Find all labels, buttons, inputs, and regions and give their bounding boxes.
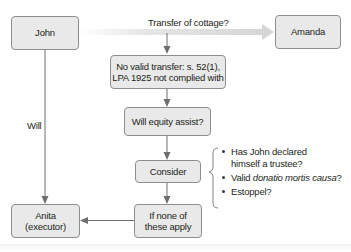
arrow-to-if-none xyxy=(164,183,171,204)
consideration-dmc-prefix: Valid xyxy=(231,172,253,183)
node-will-equity-assist-label: Will equity assist? xyxy=(132,116,204,128)
consideration-trustee-line-1: Has John declared xyxy=(231,146,342,158)
node-consider: Consider xyxy=(135,160,201,183)
consideration-item: Valid donatio mortis causa? xyxy=(221,172,342,184)
node-will-equity-assist: Will equity assist? xyxy=(124,107,211,136)
arrow-to-no-valid-transfer xyxy=(164,33,171,54)
node-consider-label: Consider xyxy=(150,166,186,178)
node-anita-line-1: Anita xyxy=(35,210,56,222)
bullet-icon xyxy=(222,150,225,153)
considerations-list: Has John declared himself a trustee? Val… xyxy=(221,146,342,200)
consideration-item: Has John declared himself a trustee? xyxy=(221,146,342,169)
arrow-to-anita xyxy=(80,217,134,224)
node-amanda-label: Amanda xyxy=(291,26,325,38)
bullet-icon xyxy=(222,176,225,179)
node-anita-line-2: (executor) xyxy=(25,221,66,233)
bullet-icon xyxy=(222,190,225,193)
node-amanda: Amanda xyxy=(275,15,341,49)
node-john: John xyxy=(11,16,79,50)
node-no-valid-transfer-line-1: No valid transfer: s. 52(1), xyxy=(116,61,220,73)
consideration-item: Estoppel? xyxy=(221,186,342,198)
consideration-dmc-italic: donatio mortis causa xyxy=(253,172,337,183)
node-if-none-line-1: If none of xyxy=(149,210,187,222)
will-label: Will xyxy=(27,120,42,131)
node-no-valid-transfer: No valid transfer: s. 52(1), LPA 1925 no… xyxy=(110,55,226,89)
node-if-none-apply: If none of these apply xyxy=(134,204,202,238)
considerations-brace xyxy=(209,148,218,208)
will-arrow xyxy=(42,50,49,204)
node-if-none-line-2: these apply xyxy=(145,221,191,233)
node-no-valid-transfer-line-2: LPA 1925 not complied with xyxy=(112,72,223,84)
consideration-estoppel: Estoppel? xyxy=(231,186,342,198)
consideration-dmc-suffix: ? xyxy=(337,172,342,183)
arrow-to-will-equity xyxy=(164,88,171,107)
node-anita: Anita (executor) xyxy=(11,204,80,238)
arrow-to-consider xyxy=(164,136,171,160)
transfer-label: Transfer of cottage? xyxy=(148,17,229,28)
consideration-trustee-line-2: himself a trustee? xyxy=(231,158,342,170)
node-john-label: John xyxy=(35,27,55,39)
